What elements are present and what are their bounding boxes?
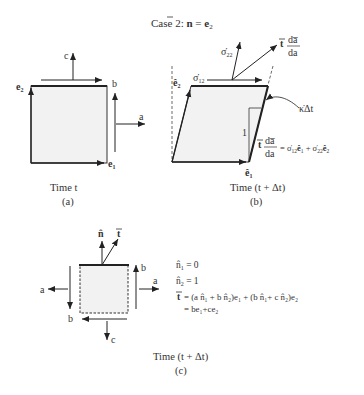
t-arrow — [102, 239, 118, 265]
svg-text:t: t — [280, 38, 284, 49]
label-traction-top: t da̅ da — [279, 34, 300, 58]
caption-b: (b) — [250, 196, 263, 208]
caption-a: (a) — [62, 196, 74, 208]
caption-c: (c) — [175, 365, 187, 377]
diagram-title: Case 2: n = e2 — [151, 17, 213, 31]
kappa-pointer — [266, 97, 299, 108]
label-e2hat: ê2 — [173, 77, 180, 89]
label-a-left: a — [40, 284, 45, 295]
svg-text:da: da — [288, 47, 298, 58]
label-c-bottom: c — [111, 334, 116, 345]
svg-text:= (a n̂₁ + b n̂₂)e₁ + (b n̂₁+: = (a n̂₁ + b n̂₂)e₁ + (b n̂₁+ c n̂₂)e₂ — [184, 292, 298, 302]
svg-text:da̅: da̅ — [265, 135, 275, 146]
label-t: t — [117, 228, 121, 239]
svg-text:t: t — [258, 139, 262, 150]
svg-text:da: da — [265, 148, 275, 159]
label-sigma22: σ̇22 — [221, 46, 232, 58]
svg-text:t: t — [177, 292, 181, 302]
equation-n1: n̂1 = 0 — [176, 260, 199, 271]
panel-c: n̂ t a b c b a n̂1 = 0 n̂2 = 1 t = (a n̂… — [40, 228, 298, 377]
svg-text:da̅: da̅ — [288, 34, 298, 45]
reference-dashed-right — [268, 66, 273, 85]
label-e1: e1 — [108, 158, 115, 170]
label-sigma12: σ̇12 — [193, 72, 204, 84]
label-e2: e2 — [16, 81, 23, 93]
sheared-element — [172, 86, 268, 162]
stress-diagram: Case 2: n = e2 c b a e2 e1 Time t (a) — [0, 0, 364, 395]
svg-text:= σ̇12ê1 + σ̇22ê2: = σ̇12ê1 + σ̇22ê2 — [280, 143, 329, 154]
label-b-right: b — [141, 262, 146, 273]
label-a: a — [139, 111, 144, 122]
label-kappa-dt: κ̇Δt — [299, 103, 313, 114]
svg-text:= be₁+ce₂: = be₁+ce₂ — [184, 304, 218, 314]
element-square — [31, 86, 107, 163]
label-c: c — [64, 50, 69, 61]
panel-a: c b a e2 e1 Time t (a) — [16, 50, 145, 208]
label-b: b — [112, 78, 117, 89]
panel-b: σ̇22 σ̇12 t da̅ da ê2 ê1 κ̇Δt 1 t da̅ da… — [172, 34, 329, 208]
label-n-hat: n̂ — [98, 228, 104, 239]
time-label-a: Time t — [50, 182, 77, 193]
label-one: 1 — [242, 127, 247, 138]
label-e1hat: ê1 — [245, 167, 252, 179]
element-square-c — [80, 265, 128, 313]
time-label-b: Time (t + Δt) — [230, 182, 286, 194]
label-a-right: a — [153, 275, 158, 286]
equation-n2: n̂2 = 1 — [176, 276, 199, 287]
traction-equation: t da̅ da = σ̇12ê1 + σ̇22ê2 — [257, 135, 329, 159]
label-b-left: b — [68, 313, 73, 324]
equation-t: t = (a n̂₁ + b n̂₂)e₁ + (b n̂₁+ c n̂₂)e₂… — [176, 292, 298, 314]
time-label-c: Time (t + Δt) — [153, 351, 209, 363]
